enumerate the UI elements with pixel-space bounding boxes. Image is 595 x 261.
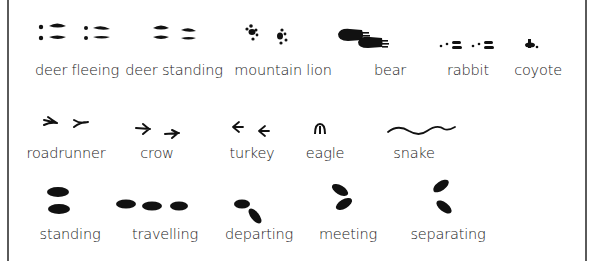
label-snake: snake — [393, 145, 434, 161]
label-deer-standing: deer standing — [125, 62, 222, 78]
eagle-track-icon — [315, 124, 325, 134]
deer-fleeing-track-icon — [39, 24, 110, 41]
label-mountain-lion: mountain lion — [234, 62, 331, 78]
track-glyphs — [0, 0, 595, 261]
label-roadrunner: roadrunner — [26, 145, 105, 161]
label-meeting: meeting — [319, 226, 377, 242]
coyote-track-icon — [525, 39, 538, 48]
label-bear: bear — [374, 62, 406, 78]
label-crow: crow — [140, 145, 174, 161]
snake-track-icon — [388, 127, 455, 134]
label-standing: standing — [40, 226, 101, 242]
travelling-mark-icon — [116, 200, 188, 211]
separating-mark-icon — [431, 177, 454, 216]
meeting-mark-icon — [330, 182, 354, 213]
mountain-lion-track-icon — [245, 24, 287, 44]
crow-track-icon — [136, 124, 179, 138]
departing-mark-icon — [234, 200, 264, 226]
label-departing: departing — [225, 226, 293, 242]
rabbit-track-icon — [440, 41, 494, 49]
label-separating: separating — [410, 226, 485, 242]
deer-standing-track-icon — [153, 26, 196, 40]
label-deer-fleeing: deer fleeing — [35, 62, 119, 78]
bear-track-icon — [338, 29, 389, 48]
label-coyote: coyote — [514, 62, 562, 78]
standing-mark-icon — [47, 187, 70, 214]
turkey-track-icon — [233, 122, 269, 136]
label-eagle: eagle — [306, 145, 344, 161]
label-turkey: turkey — [229, 145, 274, 161]
roadrunner-track-icon — [44, 117, 88, 127]
label-travelling: travelling — [132, 226, 198, 242]
label-rabbit: rabbit — [447, 62, 489, 78]
